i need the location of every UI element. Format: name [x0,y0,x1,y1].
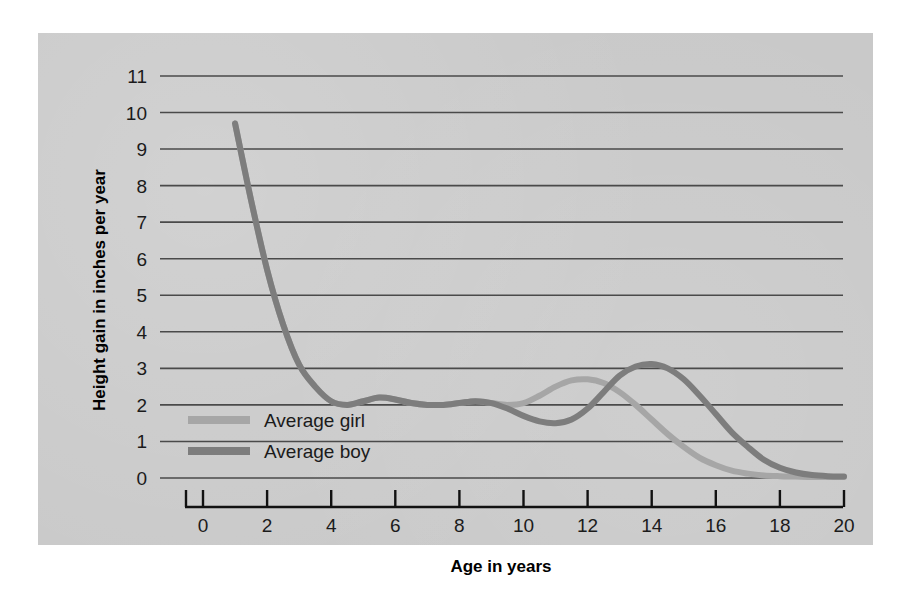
y-tick-label: 8 [136,176,147,197]
y-tick-label: 11 [127,66,147,87]
x-tick-label: 18 [769,515,790,536]
y-tick-label: 10 [126,103,147,124]
y-tick-label: 6 [136,249,147,270]
legend-label: Average boy [264,441,371,462]
x-tick-label: 14 [641,515,663,536]
legend: Average girlAverage boy [188,410,371,462]
x-tick-label: 0 [198,515,209,536]
x-tick-label: 4 [326,515,337,536]
x-tick-label: 10 [513,515,534,536]
y-tick-label: 3 [136,358,147,379]
gridlines [160,76,843,478]
x-tick-label: 12 [577,515,598,536]
x-axis-tick-labels: 02468101214161820 [198,515,855,536]
x-axis-title: Age in years [450,557,551,576]
y-axis-tick-labels: 01234567891011 [126,66,148,489]
y-axis-title: Height gain in inches per year [90,169,109,411]
y-tick-label: 0 [136,468,147,489]
growth-velocity-chart: 01234567891011 02468101214161820 Average… [0,0,910,613]
chart-page: 01234567891011 02468101214161820 Average… [0,0,910,613]
y-tick-label: 9 [136,139,147,160]
x-tick-label: 2 [262,515,273,536]
x-tick-label: 8 [454,515,465,536]
x-tick-label: 20 [833,515,854,536]
y-tick-label: 5 [136,285,147,306]
x-axis [185,490,844,507]
y-tick-label: 1 [136,431,147,452]
x-tick-label: 16 [705,515,726,536]
y-tick-label: 2 [136,395,147,416]
x-tick-label: 6 [390,515,401,536]
y-tick-label: 4 [136,322,147,343]
y-tick-label: 7 [136,212,147,233]
legend-label: Average girl [264,410,365,431]
